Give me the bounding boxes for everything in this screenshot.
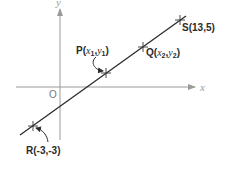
- line-rs: [20, 16, 186, 135]
- r-pointer-arrow-icon: [36, 128, 48, 142]
- point-r-label: R(-3,-3): [26, 145, 60, 156]
- p-pointer-arrow-icon: [93, 57, 103, 71]
- point-p-label: P(x1,y1): [76, 45, 109, 57]
- point-s-label: S(13,5): [182, 22, 215, 33]
- coordinate-diagram: x y O S(13,5) Q(x2,y2) P(x1,y1) R(-3,-3): [0, 0, 235, 173]
- y-axis-label: y: [55, 0, 61, 8]
- x-axis-label: x: [199, 81, 205, 93]
- origin-label: O: [49, 89, 57, 100]
- point-q-label: Q(x2,y2): [146, 47, 180, 59]
